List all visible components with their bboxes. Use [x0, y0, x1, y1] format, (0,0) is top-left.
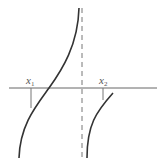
- x1-label: x1: [25, 74, 35, 88]
- function-graph: x1 x2: [0, 0, 162, 167]
- right-branch-curve: [87, 93, 113, 158]
- x2-label: x2: [98, 74, 108, 88]
